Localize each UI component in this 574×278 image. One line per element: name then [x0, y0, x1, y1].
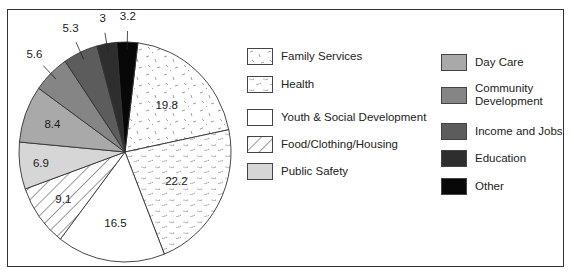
legend-label-income-jobs: Income and Jobs	[475, 125, 563, 138]
legend-label-community-development: Community Development	[475, 82, 543, 108]
legend-label-community-line2: Development	[475, 95, 543, 108]
legend-label-day-care: Day Care	[475, 56, 524, 69]
legend-label-food: Food/Clothing/Housing	[281, 138, 398, 151]
legend-item-other: Other	[441, 178, 504, 195]
slice-label-income-and-jobs: 5.3	[63, 22, 79, 34]
legend-swatch-income-jobs	[441, 123, 467, 140]
slice-label-youth-social-development: 16.5	[104, 217, 126, 229]
legend-swatch-education	[441, 150, 467, 167]
legend-item-education: Education	[441, 150, 526, 167]
legend-swatch-community-development	[441, 87, 467, 104]
legend-item-health: Health	[247, 76, 314, 93]
legend-item-family-services: Family Services	[247, 48, 362, 65]
slice-label-family-services: 19.8	[155, 99, 177, 111]
legend-swatch-public-safety	[247, 163, 273, 180]
slice-label-other: 3.2	[120, 10, 136, 22]
slice-label-day-care: 8.4	[44, 118, 61, 130]
legend-item-community-development: Community Development	[441, 82, 543, 108]
slice-label-education: 3	[99, 12, 105, 24]
slice-label-public-safety: 6.9	[33, 157, 49, 169]
pie-slices	[19, 42, 231, 262]
legend-item-food: Food/Clothing/Housing	[247, 136, 398, 153]
legend-swatch-family-services	[247, 48, 273, 65]
slice-label-community-development: 5.6	[26, 48, 42, 60]
legend-label-education: Education	[475, 152, 526, 165]
legend-label-other: Other	[475, 180, 504, 193]
legend-label-health: Health	[281, 78, 314, 91]
slice-label-food-clothing-housing: 9.1	[55, 193, 71, 205]
legend-label-community-line1: Community	[475, 82, 543, 95]
legend-swatch-food	[247, 136, 273, 153]
legend-swatch-day-care	[441, 54, 467, 71]
legend-label-family-services: Family Services	[281, 50, 362, 63]
legend-item-youth: Youth & Social Development	[247, 109, 426, 126]
legend-swatch-youth	[247, 109, 273, 126]
slice-label-health: 22.2	[165, 175, 187, 187]
legend-item-income-jobs: Income and Jobs	[441, 123, 563, 140]
legend-label-youth: Youth & Social Development	[281, 111, 426, 124]
legend-item-public-safety: Public Safety	[247, 163, 348, 180]
legend-item-day-care: Day Care	[441, 54, 524, 71]
legend-label-public-safety: Public Safety	[281, 165, 348, 178]
legend-swatch-health	[247, 76, 273, 93]
legend-swatch-other	[441, 178, 467, 195]
